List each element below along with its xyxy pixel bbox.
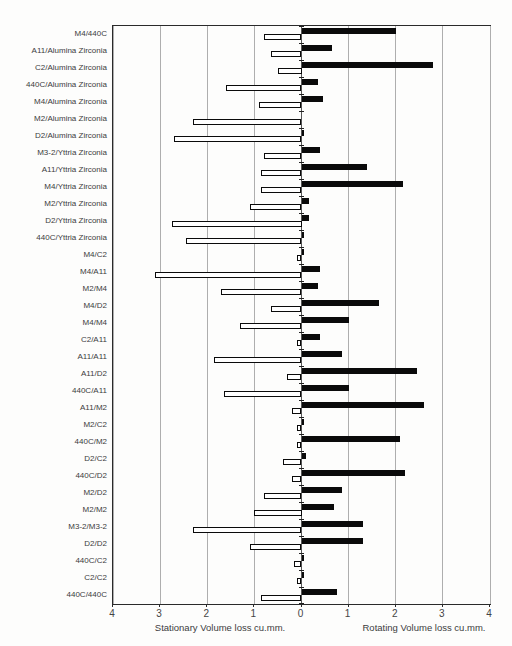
rotating-bar bbox=[302, 164, 368, 170]
x-tick-mark bbox=[112, 604, 113, 607]
category-label: M2/Yttria Zirconia bbox=[4, 199, 107, 209]
zero-axis-tick bbox=[299, 196, 304, 197]
x-tick-mark bbox=[301, 604, 302, 607]
zero-axis-tick bbox=[299, 213, 304, 214]
rotating-bar bbox=[302, 147, 321, 153]
zero-axis-tick bbox=[299, 400, 304, 401]
stationary-bar bbox=[174, 136, 301, 142]
zero-axis-tick bbox=[299, 468, 304, 469]
category-label: A11/M2 bbox=[4, 403, 107, 413]
stationary-bar bbox=[297, 255, 302, 261]
stationary-bar bbox=[193, 119, 301, 125]
stationary-bar bbox=[261, 170, 301, 176]
zero-axis-tick bbox=[299, 536, 304, 537]
category-label: M2/C2 bbox=[4, 420, 107, 430]
stationary-bar bbox=[264, 153, 302, 159]
stationary-bar bbox=[214, 357, 301, 363]
stationary-bar bbox=[283, 459, 302, 465]
category-label: M3-2/Yttria Zirconia bbox=[4, 148, 107, 158]
rotating-bar bbox=[302, 266, 321, 272]
stationary-bar bbox=[254, 510, 301, 516]
rotating-bar bbox=[302, 28, 396, 34]
category-label: M3-2/M3-2 bbox=[4, 522, 107, 532]
stationary-bar bbox=[271, 306, 302, 312]
stationary-bar bbox=[261, 187, 301, 193]
zero-axis-tick bbox=[299, 553, 304, 554]
category-label: 440C/C2 bbox=[4, 556, 107, 566]
x-tick-mark bbox=[395, 604, 396, 607]
zero-axis-tick bbox=[299, 570, 304, 571]
zero-axis-tick bbox=[299, 366, 304, 367]
zero-axis-tick bbox=[299, 298, 304, 299]
category-label: D2/C2 bbox=[4, 454, 107, 464]
zero-axis-tick bbox=[299, 43, 304, 44]
category-label: 440C/D2 bbox=[4, 471, 107, 481]
category-label: M4/A11 bbox=[4, 267, 107, 277]
stationary-bar bbox=[264, 493, 302, 499]
zero-axis-tick bbox=[299, 179, 304, 180]
gridline bbox=[160, 26, 161, 604]
category-label: M2/M2 bbox=[4, 505, 107, 515]
rotating-bar bbox=[302, 334, 321, 340]
gridline bbox=[254, 26, 255, 604]
gridline bbox=[113, 26, 114, 604]
zero-axis-tick bbox=[299, 451, 304, 452]
x-tick-label: 1 bbox=[345, 608, 351, 620]
category-label: M2/Alumina Zirconia bbox=[4, 114, 107, 124]
stationary-bar bbox=[250, 544, 302, 550]
category-label: M4/Alumina Zirconia bbox=[4, 97, 107, 107]
stationary-bar bbox=[155, 272, 301, 278]
category-label: C2/C2 bbox=[4, 573, 107, 583]
category-label: M4/M4 bbox=[4, 318, 107, 328]
zero-axis-tick bbox=[299, 77, 304, 78]
rotating-bar bbox=[302, 368, 417, 374]
stationary-bar bbox=[250, 204, 302, 210]
category-label: C2/A11 bbox=[4, 335, 107, 345]
category-label: A11/D2 bbox=[4, 369, 107, 379]
zero-axis-tick bbox=[299, 315, 304, 316]
rotating-bar bbox=[302, 351, 342, 357]
stationary-bar bbox=[297, 340, 302, 346]
rotating-bar bbox=[302, 453, 307, 459]
rotating-bar bbox=[302, 45, 333, 51]
x-tick-label: 4 bbox=[109, 608, 115, 620]
stationary-bar bbox=[292, 408, 301, 414]
rotating-bar bbox=[302, 521, 363, 527]
rotating-bar bbox=[302, 402, 425, 408]
rotating-bar bbox=[302, 215, 309, 221]
stationary-bar bbox=[297, 442, 302, 448]
wear-test-diverging-bar-chart: M4/440CA11/Alumina ZirconiaC2/Alumina Zi… bbox=[0, 0, 512, 646]
rotating-bar bbox=[302, 62, 434, 68]
zero-axis-tick bbox=[299, 60, 304, 61]
rotating-bar bbox=[302, 79, 318, 85]
zero-axis-tick bbox=[299, 162, 304, 163]
category-label: 440C/M2 bbox=[4, 437, 107, 447]
rotating-bar bbox=[302, 198, 309, 204]
rotating-bar bbox=[302, 283, 318, 289]
rotating-bar bbox=[302, 470, 406, 476]
stationary-bar bbox=[261, 595, 301, 601]
category-label: D2/Alumina Zirconia bbox=[4, 131, 107, 141]
x-tick-label: 1 bbox=[251, 608, 257, 620]
zero-axis-tick bbox=[299, 332, 304, 333]
x-tick-mark bbox=[253, 604, 254, 607]
x-tick-mark bbox=[159, 604, 160, 607]
gridline bbox=[207, 26, 208, 604]
x-tick-mark bbox=[206, 604, 207, 607]
x-tick-label: 4 bbox=[486, 608, 492, 620]
rotating-bar bbox=[302, 504, 335, 510]
rotating-bar bbox=[302, 300, 380, 306]
x-axis-title-rotating: Rotating Volume loss cu.mm. bbox=[362, 622, 485, 634]
stationary-bar bbox=[287, 374, 301, 380]
category-label: 440C/440C bbox=[4, 590, 107, 600]
category-label: 440C/Yttria Zirconia bbox=[4, 233, 107, 243]
stationary-bar bbox=[259, 102, 301, 108]
zero-axis-tick bbox=[299, 502, 304, 503]
zero-axis-tick bbox=[299, 230, 304, 231]
category-label: 440C/A11 bbox=[4, 386, 107, 396]
rotating-bar bbox=[302, 589, 337, 595]
gridline bbox=[348, 26, 349, 604]
rotating-bar bbox=[302, 487, 342, 493]
rotating-bar bbox=[302, 419, 304, 425]
stationary-bar bbox=[297, 425, 302, 431]
